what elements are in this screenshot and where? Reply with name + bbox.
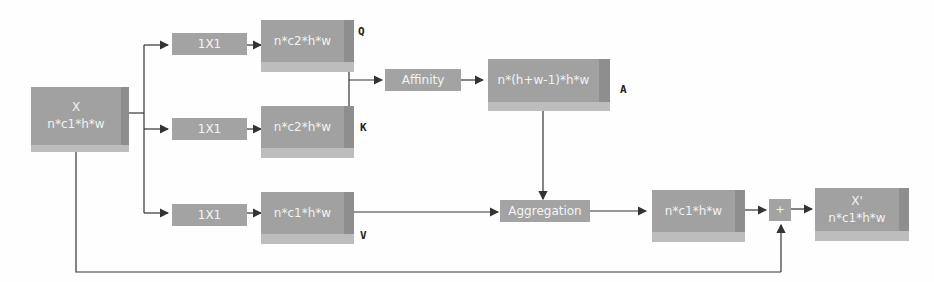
connector-lines xyxy=(0,0,934,282)
label-q: Q xyxy=(358,25,365,38)
tensor-shape: n*c2*h*w xyxy=(274,33,331,50)
conv-1x1-q: 1X1 xyxy=(172,33,247,55)
input-shape: n*c1*h*w xyxy=(47,116,104,133)
conv-label: 1X1 xyxy=(198,36,222,52)
conv-1x1-v: 1X1 xyxy=(172,204,247,226)
input-tensor-x: X n*c1*h*w xyxy=(31,87,129,152)
tensor-shape: n*c2*h*w xyxy=(274,119,331,136)
query-tensor: n*c2*h*w xyxy=(261,20,354,72)
label-k: K xyxy=(360,121,367,134)
tensor-shape: n*c1*h*w xyxy=(665,203,722,220)
affinity-op: Affinity xyxy=(385,69,461,91)
affinity-label: Affinity xyxy=(402,72,445,88)
conv-1x1-k: 1X1 xyxy=(172,118,247,140)
affinity-tensor-a: n*(h+w-1)*h*w xyxy=(488,59,610,111)
key-tensor: n*c2*h*w xyxy=(261,106,354,158)
conv-label: 1X1 xyxy=(198,207,222,223)
aggregation-op: Aggregation xyxy=(500,200,590,222)
aggregation-label: Aggregation xyxy=(508,203,581,219)
value-tensor: n*c1*h*w xyxy=(261,192,354,244)
output-shape: n*c1*h*w xyxy=(828,210,885,227)
tensor-shape: n*c1*h*w xyxy=(274,205,331,222)
add-symbol: + xyxy=(775,202,784,218)
diagram-canvas: X n*c1*h*w 1X1 n*c2*h*w Q 1X1 n*c2*h*w K… xyxy=(0,0,934,282)
output-title: X' xyxy=(851,193,863,210)
tensor-shape: n*(h+w-1)*h*w xyxy=(498,72,590,89)
input-title: X xyxy=(72,99,80,116)
label-a: A xyxy=(620,83,627,96)
conv-label: 1X1 xyxy=(198,121,222,137)
label-v: V xyxy=(360,229,367,242)
output-tensor-x-prime: X' n*c1*h*w xyxy=(815,188,909,241)
add-op: + xyxy=(769,199,791,221)
aggregated-tensor: n*c1*h*w xyxy=(652,190,745,242)
